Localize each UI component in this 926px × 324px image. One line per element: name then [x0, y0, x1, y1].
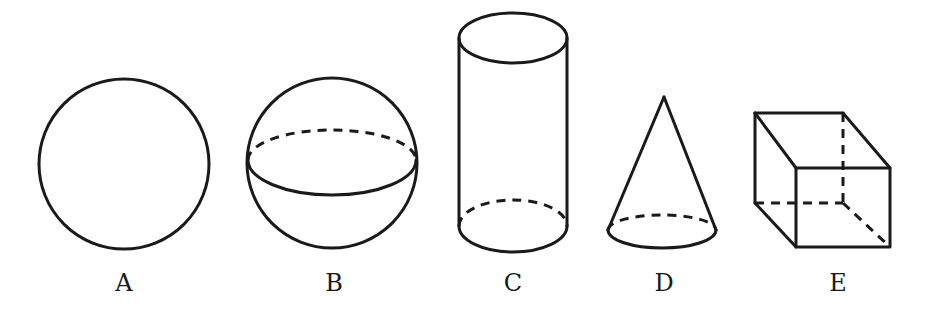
- label-a: A: [104, 268, 144, 298]
- shape-b-sphere: [247, 78, 417, 248]
- label-e: E: [818, 268, 858, 298]
- shape-d-cone: [608, 97, 716, 248]
- label-d: D: [644, 268, 684, 298]
- label-c: C: [493, 268, 533, 298]
- label-b: B: [314, 268, 354, 298]
- shape-c-cylinder: [459, 13, 567, 252]
- shape-a-circle: [39, 79, 209, 249]
- shape-e-cube: [755, 113, 890, 247]
